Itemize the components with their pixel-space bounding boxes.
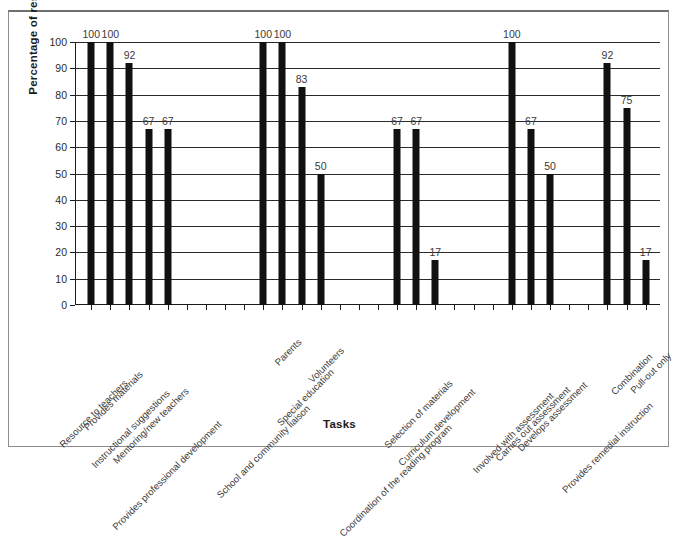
x-tick-mark: [91, 305, 92, 310]
bar-value-label: 50: [544, 160, 556, 174]
plot-area: 0102030405060708090100 10010092676710010…: [75, 42, 660, 305]
y-tick-label: 10: [55, 273, 67, 285]
y-tick-mark: [70, 305, 75, 306]
y-tick-label: 80: [55, 89, 67, 101]
y-axis-title: Percentage of respondents: [27, 0, 39, 108]
bar-value-label: 67: [410, 115, 422, 129]
gridline: [75, 68, 660, 69]
bar-value-label: 83: [296, 73, 308, 87]
x-tick-mark: [359, 305, 360, 310]
y-tick-label: 70: [55, 115, 67, 127]
bar-value-label: 100: [274, 28, 292, 42]
bar-value-label: 100: [82, 28, 100, 42]
x-category-text: Provides remedial instruction: [560, 400, 655, 495]
y-tick-label: 50: [55, 168, 67, 180]
bar: [260, 42, 267, 305]
gridline: [75, 252, 660, 253]
bar-value-label: 92: [124, 49, 136, 63]
x-tick-mark: [512, 305, 513, 310]
bar-value-label: 50: [315, 160, 327, 174]
bar: [126, 63, 133, 305]
x-category-label: Provides remedial instruction: [560, 400, 655, 495]
x-category-text: Parents: [273, 336, 304, 367]
x-tick-mark: [129, 305, 130, 310]
bar: [604, 63, 611, 305]
y-tick-mark: [70, 121, 75, 122]
gridline: [75, 279, 660, 280]
y-tick-mark: [70, 42, 75, 43]
bar-value-label: 100: [255, 28, 273, 42]
x-tick-mark: [493, 305, 494, 310]
x-tick-mark: [340, 305, 341, 310]
y-tick-label: 40: [55, 194, 67, 206]
bar-value-label: 17: [430, 246, 442, 260]
chart-figure: Percentage of respondents 01020304050607…: [8, 10, 669, 447]
y-tick-mark: [70, 200, 75, 201]
y-tick-mark: [70, 252, 75, 253]
y-tick-mark: [70, 95, 75, 96]
x-tick-mark: [149, 305, 150, 310]
bar: [317, 174, 324, 306]
bar-value-label: 67: [391, 115, 403, 129]
y-tick-mark: [70, 226, 75, 227]
bar: [298, 87, 305, 305]
x-axis-title: Tasks: [9, 418, 670, 430]
bar-value-label: 67: [143, 115, 155, 129]
bar: [394, 129, 401, 305]
x-tick-mark: [378, 305, 379, 310]
bar: [145, 129, 152, 305]
x-tick-mark: [627, 305, 628, 310]
bar: [527, 129, 534, 305]
x-tick-mark: [531, 305, 532, 310]
x-tick-mark: [646, 305, 647, 310]
x-tick-mark: [397, 305, 398, 310]
bar-value-label: 17: [640, 246, 652, 260]
bar: [623, 108, 630, 305]
x-tick-mark: [569, 305, 570, 310]
bar: [547, 174, 554, 306]
x-tick-mark: [244, 305, 245, 310]
y-tick-label: 0: [61, 299, 67, 311]
x-tick-mark: [187, 305, 188, 310]
x-tick-mark: [282, 305, 283, 310]
x-tick-mark: [263, 305, 264, 310]
x-tick-mark: [225, 305, 226, 310]
bar: [88, 42, 95, 305]
bar: [413, 129, 420, 305]
x-tick-mark: [588, 305, 589, 310]
x-tick-mark: [168, 305, 169, 310]
bar-value-label: 67: [525, 115, 537, 129]
y-tick-mark: [70, 68, 75, 69]
x-tick-mark: [550, 305, 551, 310]
y-tick-label: 30: [55, 220, 67, 232]
x-tick-mark: [435, 305, 436, 310]
gridline: [75, 200, 660, 201]
bar: [432, 260, 439, 305]
x-category-label: Parents: [273, 336, 304, 367]
bar: [164, 129, 171, 305]
gridline: [75, 174, 660, 175]
bar-value-label: 67: [162, 115, 174, 129]
x-tick-mark: [110, 305, 111, 310]
bar-value-label: 100: [102, 28, 120, 42]
x-tick-mark: [302, 305, 303, 310]
gridline: [75, 226, 660, 227]
bar-value-label: 92: [602, 49, 614, 63]
x-tick-mark: [321, 305, 322, 310]
bar-value-label: 75: [621, 94, 633, 108]
bar: [642, 260, 649, 305]
gridline: [75, 95, 660, 96]
y-tick-mark: [70, 174, 75, 175]
bar-value-label: 100: [503, 28, 521, 42]
x-tick-mark: [206, 305, 207, 310]
bar: [279, 42, 286, 305]
gridline: [75, 147, 660, 148]
x-tick-mark: [454, 305, 455, 310]
bar: [508, 42, 515, 305]
x-tick-mark: [474, 305, 475, 310]
bar: [107, 42, 114, 305]
gridline: [75, 42, 660, 43]
y-tick-label: 20: [55, 246, 67, 258]
y-tick-mark: [70, 147, 75, 148]
y-tick-label: 90: [55, 62, 67, 74]
